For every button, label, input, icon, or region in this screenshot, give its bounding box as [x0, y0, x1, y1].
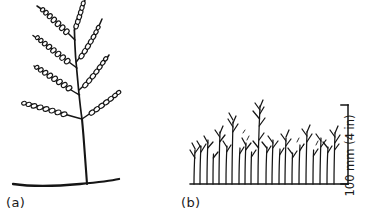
panel-b-seedling-9	[242, 138, 251, 184]
panel-b-seedling-1	[190, 143, 200, 184]
panel-a-seeds-right-1	[88, 90, 121, 117]
panel-label-a: (a)	[6, 196, 25, 209]
panel-b-seedling-22	[330, 126, 340, 184]
scale-bar-caption: 100 mm (4 in)	[345, 114, 357, 196]
panel-a-plant	[13, 0, 122, 186]
panel-b-seedling-16	[288, 148, 297, 184]
panel-b-seedlings	[190, 100, 348, 184]
panel-b-seedling-11	[253, 100, 265, 184]
panel-b-seedling-18	[302, 125, 312, 184]
panel-b-seedling-13	[268, 136, 278, 184]
panel-b-seedling-17	[299, 144, 304, 184]
panel-b-seedling-6	[223, 141, 231, 184]
panel-a-seeds-left-3	[35, 35, 71, 65]
panel-a-seeds-left-1	[21, 101, 67, 117]
panel-b-seedling-5	[215, 126, 225, 184]
panel-label-b: (b)	[181, 196, 201, 209]
panel-b-seedling-4	[213, 152, 218, 184]
panel-b-seedling-10	[251, 150, 256, 184]
panel-a-seeds-right-4	[73, 1, 86, 30]
panel-a-seeds-left-4	[40, 7, 70, 36]
panel-a-seeds-left-2	[34, 65, 73, 92]
panel-b-seedling-14	[279, 148, 284, 184]
figure-illustration	[0, 0, 376, 219]
panel-b-seedling-19	[313, 149, 318, 184]
panel-b-seedling-21	[323, 142, 332, 184]
panel-a-seeds-right-2	[82, 56, 109, 89]
figure-root: (a) (b) 100 mm (4 in)	[0, 0, 376, 219]
panel-b-seedling-3	[204, 136, 213, 184]
panel-a-stem-upper	[74, 30, 82, 119]
panel-b-seedling-15	[281, 130, 291, 184]
panel-b-seedling-12	[262, 142, 271, 184]
panel-b-seedling-8	[239, 147, 244, 184]
panel-a-ground-line	[13, 179, 119, 186]
panel-a-seeds-right-3	[78, 25, 101, 60]
panel-a-main-stem	[82, 119, 87, 184]
